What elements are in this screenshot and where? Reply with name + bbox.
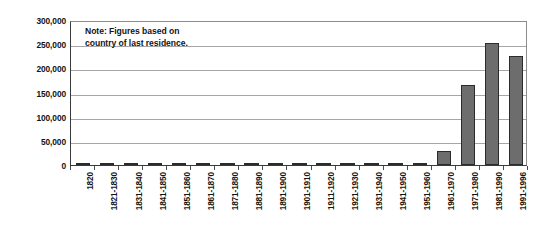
x-axis-tick-label: 1981-1990	[494, 172, 504, 210]
bar	[124, 163, 138, 165]
y-axis-labels: 300,000250,000200,000150,000100,00050,00…	[0, 0, 66, 236]
bar	[148, 163, 162, 165]
x-axis-tick-label: 1911-1920	[326, 172, 336, 210]
y-axis-tick-label: 0	[0, 161, 66, 171]
bar	[316, 163, 330, 165]
immigration-bar-chart: 300,000250,000200,000150,000100,00050,00…	[0, 0, 555, 236]
x-axis-tick-label: 1961-1970	[446, 172, 456, 210]
x-axis-tick-label: 1841-1850	[158, 172, 168, 210]
x-axis-tick	[311, 166, 312, 170]
bar	[437, 151, 451, 165]
x-axis-tick	[407, 166, 408, 170]
x-axis-tick	[214, 166, 215, 170]
x-axis-tick-label: 1851-1860	[182, 172, 192, 210]
x-axis-tick	[118, 166, 119, 170]
x-axis-tick-label: 1941-1950	[398, 172, 408, 210]
x-axis-tick-label: 1831-1840	[134, 172, 144, 210]
x-axis-tick-label: 1881-1890	[254, 172, 264, 210]
x-axis-tick-label: 1921-1930	[350, 172, 360, 210]
x-axis-tick	[286, 166, 287, 170]
bar	[461, 85, 475, 165]
x-axis-tick	[166, 166, 167, 170]
bar	[413, 163, 427, 165]
chart-note: Note: Figures based on country of last r…	[85, 25, 188, 50]
y-axis-tick-label: 300,000	[0, 16, 66, 26]
x-axis-tick-label: 1891-1900	[278, 172, 288, 210]
bar	[196, 163, 210, 165]
x-axis-tick	[479, 166, 480, 170]
y-axis-tick-label: 100,000	[0, 113, 66, 123]
bar	[340, 163, 354, 165]
bar	[268, 163, 282, 165]
x-axis-tick	[262, 166, 263, 170]
y-axis-tick-label: 150,000	[0, 89, 66, 99]
x-axis-tick	[431, 166, 432, 170]
x-axis-tick	[383, 166, 384, 170]
bar	[76, 163, 90, 165]
bar	[172, 163, 186, 165]
plot-area: Note: Figures based on country of last r…	[70, 21, 527, 166]
y-axis-tick-label: 50,000	[0, 137, 66, 147]
x-axis-tick	[335, 166, 336, 170]
x-axis-tick	[94, 166, 95, 170]
bar	[244, 163, 258, 165]
x-axis-tick-label: 1951-1960	[422, 172, 432, 210]
x-axis-tick	[503, 166, 504, 170]
bar	[388, 163, 402, 165]
x-axis-tick	[455, 166, 456, 170]
bar	[220, 163, 234, 165]
x-axis-tick-label: 1861-1870	[206, 172, 216, 210]
x-axis-tick-label: 1971-1980	[470, 172, 480, 210]
bar	[292, 163, 306, 165]
bar	[100, 163, 114, 165]
bar	[509, 56, 523, 165]
x-axis-tick	[527, 166, 528, 170]
x-axis-tick-label: 1901-1910	[302, 172, 312, 210]
x-axis-tick-label: 1991-1996	[518, 172, 528, 210]
y-axis-tick-label: 250,000	[0, 40, 66, 50]
bar	[485, 43, 499, 165]
x-axis-tick-label: 1871-1880	[230, 172, 240, 210]
x-axis-tick	[190, 166, 191, 170]
x-axis-tick-label: 1821-1830	[109, 172, 119, 210]
x-axis-tick	[70, 166, 71, 170]
x-axis-tick-label: 1931-1940	[374, 172, 384, 210]
x-axis-tick	[142, 166, 143, 170]
y-axis-tick-label: 200,000	[0, 64, 66, 74]
bar	[364, 163, 378, 165]
x-axis-tick-label: 1820	[85, 172, 95, 190]
x-axis-tick	[238, 166, 239, 170]
x-axis-tick	[359, 166, 360, 170]
